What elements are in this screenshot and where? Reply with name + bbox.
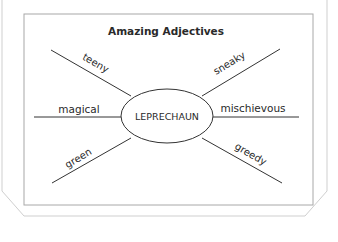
- center-word: LEPRECHAUN: [135, 111, 199, 122]
- worksheet-canvas: Amazing Adjectives LEPRECHAUN teeny snea…: [0, 0, 338, 242]
- adjective-upper-right: sneaky: [211, 49, 247, 77]
- adjective-left: magical: [58, 103, 99, 115]
- sheet-outline: [2, 0, 24, 214]
- diagram-title: Amazing Adjectives: [108, 25, 224, 37]
- adjective-lower-right: greedy: [233, 141, 269, 168]
- adjective-right: mischievous: [220, 102, 285, 114]
- adjective-lower-left: green: [63, 146, 93, 170]
- sheet-outline-edge: [2, 0, 24, 216]
- adjective-upper-left: teeny: [81, 51, 111, 75]
